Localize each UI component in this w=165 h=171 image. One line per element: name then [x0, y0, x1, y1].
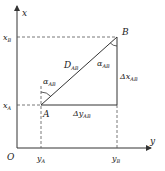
segment-AB — [41, 37, 117, 105]
yA-label: yA — [36, 154, 46, 164]
vertical-axis-label: x — [22, 8, 27, 18]
yB-label: yB — [111, 154, 121, 164]
origin-label: O — [7, 152, 15, 162]
angle-A-label: αAB — [43, 77, 56, 87]
xA-label: xA — [3, 101, 12, 111]
segment-label: DAB — [63, 60, 79, 71]
azimuth-diagram: x y O B A xB xA yA yB DAB αAB αAB ΔxAB Δ… — [0, 0, 165, 171]
xB-label: xB — [3, 33, 12, 43]
angle-arc-A — [41, 92, 51, 96]
angle-B-label: αAB — [97, 59, 110, 69]
angle-arc-B — [110, 43, 117, 46]
delta-x-label: ΔxAB — [119, 72, 138, 82]
delta-y-label: ΔyAB — [72, 109, 91, 119]
point-A-label: A — [42, 109, 50, 119]
horizontal-axis-label: y — [149, 136, 156, 146]
point-B-label: B — [121, 27, 129, 37]
